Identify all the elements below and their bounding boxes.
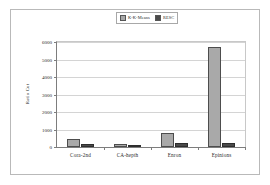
y-axis-tick: [54, 77, 57, 78]
x-axis-tick: [245, 147, 246, 150]
bar: [222, 143, 235, 147]
bar: [208, 47, 221, 147]
chart-figure: K-K-Means RESC Ratio Cut 010002000300040…: [0, 0, 270, 185]
y-axis-tick: [54, 147, 57, 148]
x-axis-label: Enron: [168, 153, 181, 158]
y-axis-tick: [54, 112, 57, 113]
x-axis-tick: [151, 147, 152, 150]
bar: [161, 133, 174, 147]
y-axis-title: Ratio Cut: [25, 84, 30, 104]
y-axis-label: 4000: [42, 75, 52, 80]
bar: [114, 144, 127, 147]
y-axis-tick: [54, 42, 57, 43]
x-axis-tick: [198, 147, 199, 150]
y-axis-tick: [54, 60, 57, 61]
bar: [67, 139, 80, 147]
chart-legend: K-K-Means RESC: [116, 12, 178, 24]
bar: [128, 145, 141, 147]
bar-group: [208, 42, 235, 147]
x-axis-label: CA-hepth: [117, 153, 139, 158]
y-axis-label: 3000: [42, 92, 52, 97]
y-axis-label: 6000: [42, 40, 52, 45]
legend-entry-series-1: K-K-Means: [120, 15, 150, 21]
legend-entry-series-2: RESC: [155, 15, 174, 21]
x-axis-label: Epinions: [212, 153, 232, 158]
y-axis-label: 5000: [42, 57, 52, 62]
x-axis-tick: [104, 147, 105, 150]
legend-swatch-series-2: [155, 15, 161, 21]
legend-swatch-series-1: [120, 15, 126, 21]
y-axis-label: 0: [50, 145, 53, 150]
y-axis-tick: [54, 130, 57, 131]
plot-area: 0100020003000400050006000 Cora-2ndCA-hep…: [56, 41, 246, 148]
bar-group: [67, 42, 94, 147]
legend-label-series-1: K-K-Means: [128, 16, 150, 20]
bar-group: [161, 42, 188, 147]
y-axis-label: 2000: [42, 110, 52, 115]
y-axis-label: 1000: [42, 127, 52, 132]
y-axis-tick: [54, 95, 57, 96]
legend-label-series-2: RESC: [163, 16, 174, 20]
bar-group: [114, 42, 141, 147]
bar: [81, 144, 94, 147]
x-axis-label: Cora-2nd: [70, 153, 91, 158]
bar: [175, 143, 188, 147]
